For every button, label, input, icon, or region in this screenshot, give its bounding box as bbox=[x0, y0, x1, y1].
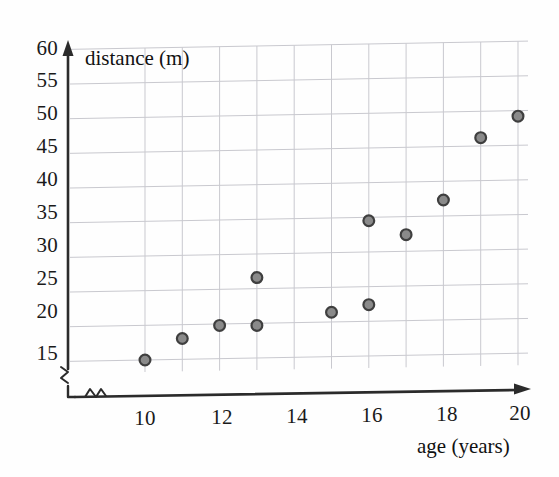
x-tick-label: 18 bbox=[427, 402, 467, 427]
data-point bbox=[438, 195, 449, 206]
data-point bbox=[363, 215, 374, 226]
data-point bbox=[140, 355, 151, 366]
grid-line-horizontal bbox=[70, 76, 528, 84]
data-point bbox=[363, 299, 374, 310]
data-point bbox=[475, 132, 486, 143]
grid-line-horizontal bbox=[70, 249, 528, 257]
grid-line-horizontal bbox=[70, 145, 528, 153]
axis-corner-connector bbox=[68, 386, 75, 397]
grid-line-horizontal bbox=[70, 180, 528, 188]
y-axis-arrowhead bbox=[63, 40, 74, 56]
gridlines-group bbox=[70, 41, 528, 372]
grid-line-horizontal bbox=[70, 110, 528, 118]
data-point bbox=[252, 272, 263, 283]
data-point bbox=[401, 229, 412, 240]
x-tick-label: 20 bbox=[500, 401, 540, 426]
x-tick-label: 10 bbox=[125, 406, 165, 431]
x-tick-label: 14 bbox=[277, 404, 317, 429]
y-tick-label: 25 bbox=[18, 266, 58, 291]
y-tick-label: 45 bbox=[18, 134, 58, 159]
x-axis-line bbox=[75, 390, 518, 397]
x-axis-title: age (years) bbox=[417, 434, 510, 459]
grid-line-horizontal bbox=[70, 284, 528, 292]
x-axis-arrowhead bbox=[514, 384, 531, 395]
x-tick-label: 12 bbox=[202, 405, 242, 430]
x-tick-label: 16 bbox=[352, 403, 392, 428]
grid-line-horizontal bbox=[70, 214, 528, 222]
data-point bbox=[252, 320, 263, 331]
y-tick-label: 30 bbox=[18, 233, 58, 258]
scatter-plot-figure: 60 55 50 45 40 35 30 25 20 15 10 12 14 1… bbox=[0, 0, 559, 477]
y-tick-label: 55 bbox=[18, 68, 58, 93]
y-axis-title: distance (m) bbox=[85, 46, 189, 71]
y-tick-label: 15 bbox=[18, 341, 58, 366]
y-tick-label: 60 bbox=[18, 36, 58, 61]
y-tick-label: 20 bbox=[18, 299, 58, 324]
data-point bbox=[326, 307, 337, 318]
grid-line-horizontal bbox=[70, 318, 528, 326]
y-tick-label: 40 bbox=[18, 167, 58, 192]
y-tick-label: 50 bbox=[18, 101, 58, 126]
data-point bbox=[177, 333, 188, 344]
y-tick-label: 35 bbox=[18, 200, 58, 225]
data-point bbox=[214, 320, 225, 331]
data-point bbox=[513, 111, 524, 122]
